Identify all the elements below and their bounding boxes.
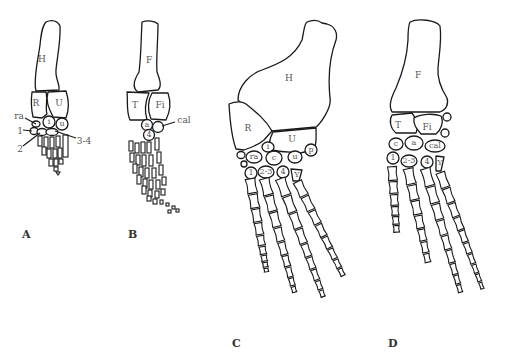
digit2-d-phalanx-2 (407, 184, 419, 200)
panel-label-d: D (388, 337, 398, 350)
calcaneum-b (153, 122, 164, 133)
digit1-d-phalanx-6 (393, 225, 399, 232)
digit3-c-phalanx-9 (319, 290, 325, 298)
digits-a (38, 135, 68, 175)
callout-radiale-a: ra (14, 111, 24, 121)
label-tibia-d: T (395, 120, 401, 130)
label-dt23-d: 2-3 (403, 156, 416, 165)
panel-d: F T Fi c a cal 1 2-3 4 Y D (387, 20, 484, 350)
digit3-d-phalanx-4 (436, 220, 448, 236)
digit3-c-phalanx-7 (311, 269, 320, 281)
label-dt4-d: 4 (424, 157, 429, 166)
digit2-c-phalanx-5 (278, 242, 288, 256)
extra-tarsal2-d (441, 129, 449, 137)
digit4-d-phalanx-7 (468, 254, 476, 265)
digit4-d-phalanx-6 (463, 242, 472, 254)
digit3-d-phalanx-6 (446, 250, 456, 264)
callout-digit1-a: 1 (17, 126, 23, 136)
digit3-c-phalanx-4 (295, 228, 307, 244)
label-y-d: Y (436, 158, 443, 167)
digit2-d-phalanx-6 (421, 241, 430, 253)
label-dc1-c: 1 (248, 168, 253, 177)
panel-label-b: B (128, 228, 137, 241)
digit2-d-phalanx-5 (418, 229, 427, 242)
digit4-c-phalanx-1 (293, 180, 308, 198)
digit4-d-phalanx-5 (458, 230, 468, 243)
digit4-c-phalanx-4 (315, 223, 327, 237)
digit4-c-phalanx-3 (308, 210, 321, 226)
panel-label-c: C (232, 337, 241, 350)
label-dt1-d: 1 (390, 153, 395, 162)
panel-a: H R U i u ra 1 2 3-4 A (14, 21, 91, 241)
digit4-d-phalanx-9 (475, 274, 481, 282)
label-calcaneum-d: cal (429, 141, 441, 150)
digit4-d-phalanx-2 (442, 187, 455, 203)
callout-calcaneum-b: cal (177, 115, 190, 125)
digit3-d-phalanx-9 (456, 284, 462, 292)
digit3-c-phalanx-1 (276, 177, 291, 197)
digits-d (388, 166, 484, 292)
label-femur-d: F (415, 70, 421, 80)
label-fibula-d: Fi (422, 122, 431, 132)
label-ulna-c: U (288, 134, 296, 144)
digits-c (245, 177, 345, 297)
label-centrale-c: c (272, 153, 277, 162)
digit3-c-phalanx-6 (306, 257, 316, 270)
label-fibula-b: Fi (155, 100, 164, 110)
digit1-c-phalanx-4 (254, 222, 264, 235)
digit1-c-phalanx-7 (261, 255, 268, 261)
label-tibia-b: T (132, 100, 138, 110)
digit1-c-phalanx-3 (251, 209, 262, 223)
digit1-c-phalanx-2 (248, 194, 260, 209)
digit2-c-phalanx-1 (259, 177, 273, 196)
digit1-d-phalanx-1 (388, 166, 398, 180)
extra-carpal-c (237, 152, 245, 159)
extra-tarsal-d (443, 113, 451, 121)
digit3-d-phalanx-7 (450, 263, 458, 275)
digit2-c-phalanx-7 (285, 267, 293, 278)
digit3-d-phalanx-8 (453, 275, 460, 285)
label-y-c: Y (293, 170, 300, 179)
digit4-c-phalanx-6 (328, 248, 338, 260)
digit3-c-phalanx-2 (282, 195, 296, 214)
digit2-c-phalanx-4 (274, 227, 285, 242)
panel-label-a: A (21, 228, 31, 241)
digit3-c-phalanx-3 (289, 212, 302, 230)
panel-b: F T Fi a 4 cal B (127, 21, 191, 241)
digit4-c-phalanx-5 (322, 236, 333, 249)
digit4-c-phalanx-7 (333, 259, 341, 269)
digit2-d-phalanx-3 (411, 200, 422, 215)
digit4-d-phalanx-3 (448, 202, 460, 217)
digit2-c-phalanx-8 (288, 278, 295, 287)
digit2-c-phalanx-2 (264, 195, 277, 212)
label-ulnare-a: u (59, 119, 64, 128)
panel-c: H R U i ra c u p 1 2-3 4 Y C (229, 21, 345, 350)
digit3-c-phalanx-5 (301, 243, 312, 257)
femur-d (390, 20, 447, 112)
digit4-c-phalanx-2 (301, 195, 315, 212)
label-pisiform-c: p (308, 145, 313, 154)
callout-carpal34-a: 3-4 (77, 136, 92, 146)
digit1-c-phalanx-6 (259, 246, 267, 255)
digit3-d-phalanx-1 (420, 167, 434, 187)
digit4-d-phalanx-1 (436, 171, 450, 189)
digit4-d-phalanx-10 (479, 282, 484, 289)
digit3-c-phalanx-8 (315, 280, 323, 290)
label-astragalus-b: a (145, 120, 150, 129)
digit2-d-phalanx-4 (414, 215, 424, 229)
digit4-c-phalanx-8 (338, 268, 345, 277)
label-radiale-c: ra (250, 152, 259, 161)
label-humerus-a: H (38, 54, 46, 64)
digit4-d-phalanx-4 (453, 217, 464, 231)
label-ulna-a: U (55, 98, 63, 108)
label-ulnare-c: u (292, 152, 297, 161)
label-dc23-c: 2-3 (260, 167, 273, 176)
label-intermedium-c: i (267, 142, 270, 151)
digits-b (129, 138, 179, 213)
digit1-d-phalanx-2 (389, 181, 398, 193)
digit1-c-phalanx-1 (245, 178, 257, 194)
digit2-c-phalanx-3 (269, 211, 281, 227)
digit2-c-phalanx-6 (282, 255, 291, 267)
label-femur-b: F (146, 55, 152, 65)
label-radius-c: R (245, 123, 252, 133)
